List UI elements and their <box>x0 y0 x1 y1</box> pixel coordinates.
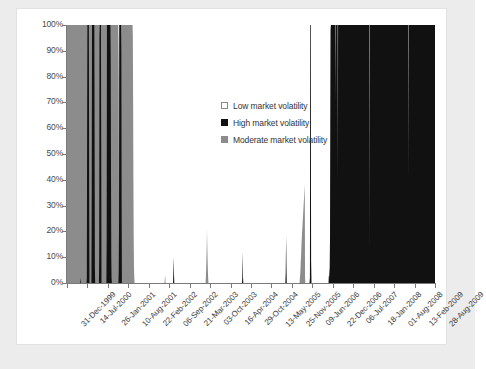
x-tick-mark <box>312 284 313 288</box>
y-tick-label: 10% <box>23 252 63 261</box>
x-tick-mark <box>374 284 375 288</box>
y-tick-label: 50% <box>23 149 63 158</box>
x-tick-mark <box>67 284 68 288</box>
x-tick-mark <box>292 284 293 288</box>
x-tick-mark <box>394 284 395 288</box>
legend-item-label: Low market volatility <box>233 101 307 111</box>
y-tick-mark <box>62 154 66 155</box>
x-tick-mark <box>415 284 416 288</box>
stacked-area-svg <box>67 25 435 283</box>
legend-swatch-high <box>221 119 228 126</box>
y-tick-label: 40% <box>23 175 63 184</box>
legend-item-label: High market volatility <box>233 118 309 128</box>
legend-item[interactable]: High market volatility <box>221 114 381 131</box>
x-tick-mark <box>149 284 150 288</box>
x-tick-mark <box>87 284 88 288</box>
y-tick-mark <box>62 180 66 181</box>
legend-item[interactable]: Low market volatility <box>221 97 381 114</box>
chart-plot-wrapper: 100%90%80%70%60%50%40%30%20%10%0% 31-Dec… <box>17 9 446 344</box>
x-tick-mark <box>169 284 170 288</box>
x-tick-mark <box>435 284 436 288</box>
plot-area <box>67 25 435 283</box>
chart-card: 100%90%80%70%60%50%40%30%20%10%0% 31-Dec… <box>17 9 446 344</box>
x-tick-mark <box>108 284 109 288</box>
x-tick-mark <box>231 284 232 288</box>
x-tick-mark <box>128 284 129 288</box>
x-tick-mark <box>353 284 354 288</box>
chart-legend: Low market volatilityHigh market volatil… <box>221 97 381 148</box>
legend-swatch-low <box>221 102 228 109</box>
y-tick-mark <box>62 231 66 232</box>
y-tick-mark <box>62 51 66 52</box>
y-axis-labels: 100%90%80%70%60%50%40%30%20%10%0% <box>17 9 63 344</box>
y-tick-mark <box>62 77 66 78</box>
y-tick-mark <box>62 128 66 129</box>
x-tick-mark <box>210 284 211 288</box>
y-tick-label: 100% <box>23 20 63 29</box>
y-tick-label: 60% <box>23 123 63 132</box>
y-tick-mark <box>62 206 66 207</box>
x-tick-mark <box>251 284 252 288</box>
y-tick-mark <box>62 257 66 258</box>
legend-swatch-moderate <box>221 136 228 143</box>
y-tick-label: 20% <box>23 226 63 235</box>
y-tick-label: 70% <box>23 97 63 106</box>
x-tick-mark <box>333 284 334 288</box>
y-tick-mark <box>62 25 66 26</box>
y-tick-label: 90% <box>23 46 63 55</box>
x-tick-mark <box>190 284 191 288</box>
y-tick-label: 30% <box>23 201 63 210</box>
y-tick-mark <box>62 283 66 284</box>
y-tick-label: 80% <box>23 72 63 81</box>
legend-item-label: Moderate market volatility <box>233 135 327 145</box>
y-tick-mark <box>62 102 66 103</box>
x-tick-mark <box>271 284 272 288</box>
y-tick-label: 0% <box>23 278 63 287</box>
legend-item[interactable]: Moderate market volatility <box>221 131 381 148</box>
